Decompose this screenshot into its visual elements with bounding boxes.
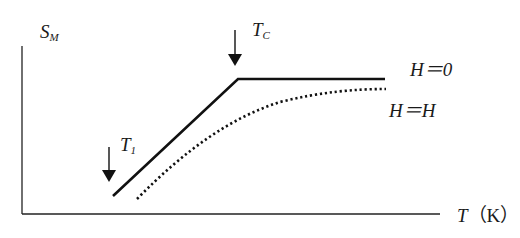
arrow-down-icon-tc bbox=[228, 30, 242, 66]
y-axis-label: SM bbox=[40, 22, 59, 43]
x-axis-label: T（K） bbox=[457, 206, 519, 225]
arrow-down-icon-t1 bbox=[102, 147, 116, 182]
curve-h-field bbox=[137, 89, 386, 199]
curve-label-h-zero: H＝0 bbox=[410, 60, 452, 79]
t1-label: T1 bbox=[120, 135, 136, 156]
tc-label: TC bbox=[252, 20, 270, 41]
curve-h-zero bbox=[113, 79, 385, 196]
curve-label-h-field: H＝H bbox=[389, 101, 435, 120]
